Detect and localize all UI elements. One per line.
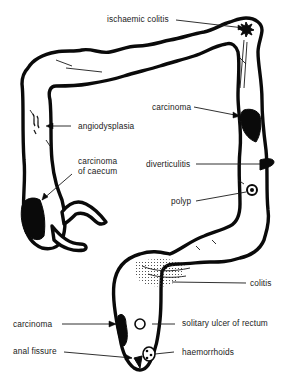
polyp-center — [250, 188, 254, 192]
label-carcinoma-caecum-line1: carcinoma — [78, 156, 117, 166]
label-colitis: colitis — [250, 278, 271, 288]
haemorrhoids-lesion — [143, 347, 155, 361]
label-angiodysplasia: angiodysplasia — [78, 121, 134, 131]
label-carcinoma-descending: carcinoma — [152, 102, 191, 112]
label-carcinoma-caecum-line2: of caecum — [78, 166, 117, 176]
label-diverticulitis: diverticulitis — [146, 159, 190, 169]
ischaemic-colitis-lesion — [239, 22, 254, 37]
label-haemorrhoids: haemorrhoids — [182, 347, 234, 357]
label-ischaemic-colitis: ischaemic colitis — [107, 14, 169, 24]
label-anal-fissure: anal fissure — [13, 346, 57, 356]
label-carcinoma-caecum: carcinoma of caecum — [78, 156, 117, 176]
label-polyp: polyp — [171, 196, 191, 206]
terminal-ileum — [62, 202, 106, 224]
carcinoma-rectum-lesion — [117, 314, 127, 346]
carcinoma-caecum-lesion — [21, 198, 45, 240]
label-solitary-ulcer: solitary ulcer of rectum — [182, 318, 268, 328]
label-carcinoma-rectum: carcinoma — [13, 319, 52, 329]
solitary-ulcer-lesion — [135, 319, 145, 329]
